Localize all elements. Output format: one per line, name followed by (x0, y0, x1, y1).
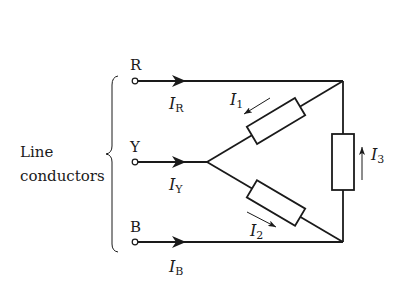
terminal-label-B: B (130, 218, 141, 236)
terminal-Y (132, 159, 138, 165)
circuit-diagram: R Y B IR IY IB I1 I2 I3 Line conductors (0, 0, 404, 286)
terminal-R (132, 78, 138, 84)
line-B (132, 236, 343, 248)
terminal-label-Y: Y (129, 138, 141, 156)
line-Y (132, 156, 207, 168)
terminal-label-R: R (130, 56, 142, 74)
arrow-I1-icon (244, 98, 270, 114)
current-label-IY: IY (168, 175, 183, 196)
current-label-I2: I2 (249, 221, 263, 242)
group-label-conductors: conductors (20, 167, 105, 185)
line-R (132, 75, 343, 87)
resistor-2 (247, 180, 305, 226)
line-conductors-brace (106, 76, 118, 252)
current-label-IR: IR (168, 94, 184, 115)
current-label-I1: I1 (229, 90, 243, 111)
terminal-B (132, 239, 138, 245)
current-label-I3: I3 (370, 145, 384, 166)
current-label-IB: IB (168, 257, 183, 278)
resistor-3 (332, 134, 354, 190)
group-label-line: Line (20, 143, 53, 161)
resistor-1 (247, 98, 305, 144)
